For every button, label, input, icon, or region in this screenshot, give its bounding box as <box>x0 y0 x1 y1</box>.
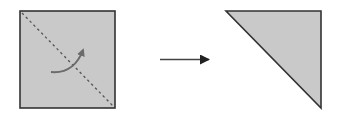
square-paper <box>20 11 115 108</box>
folding-diagram <box>0 0 337 115</box>
triangle-paper <box>226 11 321 108</box>
